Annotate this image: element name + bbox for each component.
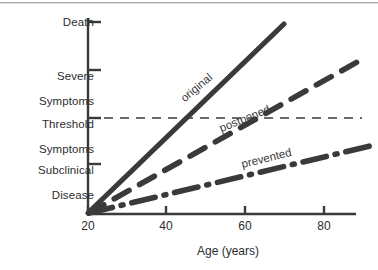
x-tick-label-20: 20	[68, 219, 108, 233]
y-axis-label-severe-line1: Severe	[57, 70, 94, 82]
x-tick-label-80: 80	[304, 219, 344, 233]
x-tick-label-40: 40	[146, 219, 186, 233]
y-axis-label-subclinical-line1: Subclinical	[38, 164, 94, 176]
y-axis-label-threshold-line1: Threshold	[42, 118, 94, 130]
y-axis-label-threshold-symptoms: Threshold Symptoms	[39, 105, 94, 155]
y-axis-label-severe-symptoms: Severe Symptoms	[39, 57, 94, 107]
x-tick-label-60: 60	[225, 219, 265, 233]
y-axis-label-subclinical-line2: Disease	[52, 189, 94, 201]
y-axis-label-death: Death	[63, 16, 94, 29]
x-axis-title: Age (years)	[158, 244, 298, 258]
chart-figure: Death Severe Symptoms Threshold Symptoms…	[0, 0, 378, 270]
series-line-prevented	[89, 146, 370, 213]
y-axis-label-subclinical-disease: Subclinical Disease	[38, 151, 94, 201]
